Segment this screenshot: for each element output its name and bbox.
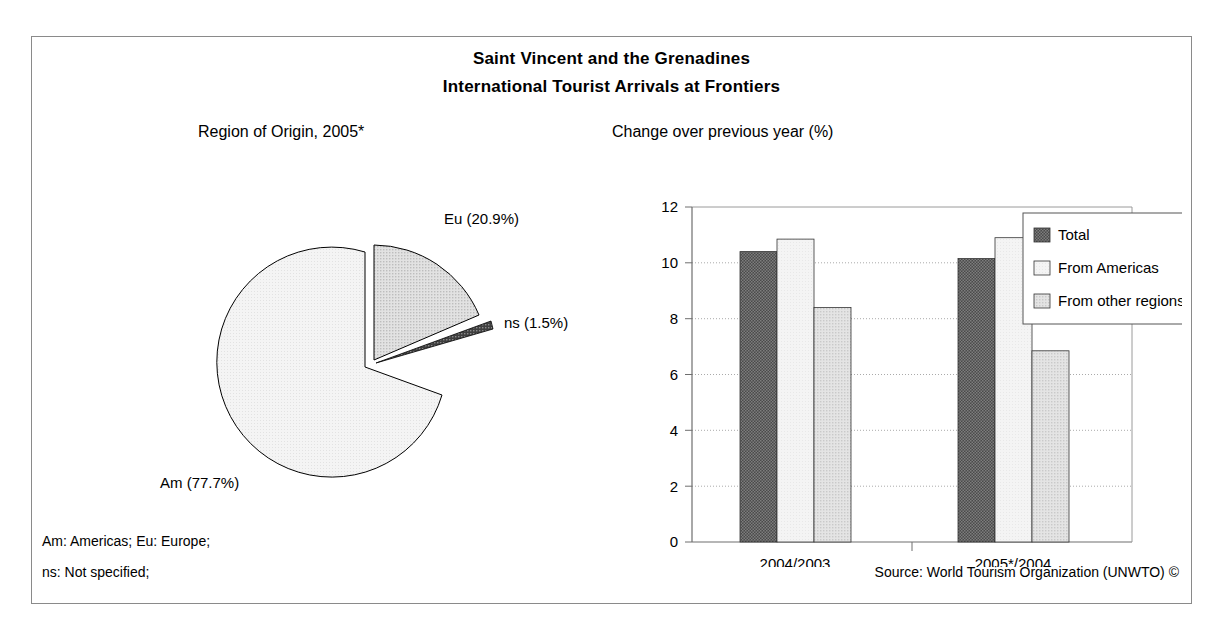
pie-label-ns: ns (1.5%) [504, 314, 568, 331]
pie-label-am: Am (77.7%) [160, 474, 239, 491]
chart-frame: Saint Vincent and the Grenadines Interna… [31, 36, 1192, 604]
page-title-line2: International Tourist Arrivals at Fronti… [32, 77, 1191, 97]
pie-chart: Eu (20.9%) ns (1.5%) Am (77.7%) [152, 147, 572, 507]
footnote-ns: ns: Not specified; [42, 564, 149, 580]
bar-total-2005 [958, 259, 995, 542]
bar-total-2004 [740, 252, 777, 542]
pie-slice-eu [374, 245, 479, 360]
bar-other-2005 [1032, 351, 1069, 542]
bar-americas-2004 [777, 239, 814, 542]
footnote-abbreviations: Am: Americas; Eu: Europe; [42, 533, 210, 549]
source-attribution: Source: World Tourism Organization (UNWT… [875, 564, 1179, 580]
legend-swatch-other [1034, 294, 1050, 308]
y-tick-0: 0 [670, 533, 678, 550]
legend-label-total: Total [1058, 226, 1090, 243]
bar-other-2004 [814, 308, 851, 543]
pie-label-eu: Eu (20.9%) [444, 210, 519, 227]
pie-chart-subtitle: Region of Origin, 2005* [198, 123, 364, 141]
legend-label-americas: From Americas [1058, 259, 1159, 276]
chart-legend: Total From Americas From other regions [1023, 213, 1182, 324]
y-tick-6: 6 [670, 366, 678, 383]
y-axis-ticks [685, 207, 692, 542]
legend-label-other: From other regions [1058, 292, 1182, 309]
bar-group-2004-2003 [740, 239, 851, 542]
y-tick-8: 8 [670, 310, 678, 327]
page-title-line1: Saint Vincent and the Grenadines [32, 49, 1191, 69]
legend-swatch-americas [1034, 261, 1050, 275]
x-cat-label-0: 2004/2003 [760, 555, 831, 567]
legend-swatch-total [1034, 228, 1050, 242]
y-tick-12: 12 [661, 198, 678, 215]
y-tick-10: 10 [661, 254, 678, 271]
bar-chart: 0 2 4 6 8 10 12 2004/2003 2005* [622, 137, 1182, 567]
y-tick-4: 4 [670, 422, 678, 439]
y-tick-2: 2 [670, 478, 678, 495]
